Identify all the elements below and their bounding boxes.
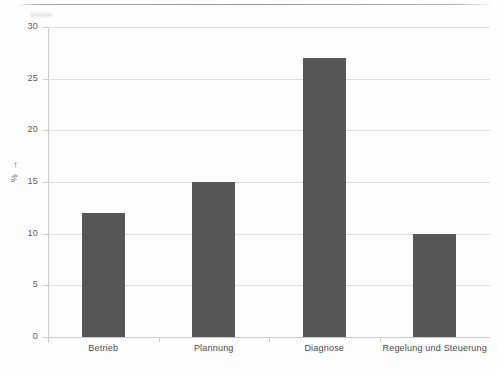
bar-chart: % → 051015202530 BetriebPlannungDiagnose… (0, 0, 499, 373)
y-axis-tick-label-25: 25 (10, 74, 38, 83)
x-axis-label: Plannung (159, 344, 270, 353)
y-axis-tick-label-0: 0 (10, 332, 38, 341)
bar (413, 234, 456, 337)
y-axis-tick-label-20: 20 (10, 125, 38, 134)
x-axis-label: Betrieb (48, 344, 159, 353)
x-axis-tick (380, 337, 381, 342)
x-axis-tick (159, 337, 160, 342)
y-axis-tick-label-30: 30 (10, 22, 38, 31)
y-axis-tick-label-15: 15 (10, 177, 38, 186)
bar (82, 213, 125, 337)
bar (303, 58, 346, 337)
y-axis-tick-label-5: 5 (10, 280, 38, 289)
bar (192, 182, 235, 337)
plot-area (48, 27, 490, 337)
x-axis-tick (269, 337, 270, 342)
x-axis-tick-origin (48, 337, 49, 342)
x-axis-label: Diagnose (269, 344, 380, 353)
x-axis-label: Regelung und Steuerung (380, 344, 491, 353)
y-axis-tick-label-10: 10 (10, 229, 38, 238)
